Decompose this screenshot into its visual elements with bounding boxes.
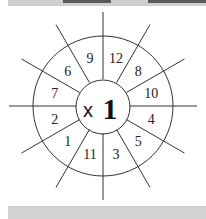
radial-line bbox=[56, 25, 90, 83]
segment-number: 11 bbox=[83, 147, 96, 162]
radial-line bbox=[117, 129, 151, 187]
segment-number: 12 bbox=[109, 51, 123, 66]
segment-number: 2 bbox=[51, 112, 58, 127]
segment-number: 8 bbox=[135, 64, 142, 79]
segment-number: 9 bbox=[87, 51, 94, 66]
operator-symbol: x bbox=[83, 99, 93, 121]
segment-number: 10 bbox=[144, 86, 158, 101]
segment-number: 1 bbox=[64, 134, 71, 149]
segment-number: 4 bbox=[148, 112, 155, 127]
multiplier-number: 1 bbox=[103, 92, 118, 125]
bottom-gray-bar bbox=[8, 206, 206, 219]
segment-number: 5 bbox=[135, 134, 142, 149]
segment-number: 3 bbox=[112, 147, 119, 162]
segment-number: 6 bbox=[64, 64, 71, 79]
multiplication-wheel: 128104531112769 x 1 bbox=[0, 0, 206, 219]
segment-number: 7 bbox=[51, 86, 58, 101]
